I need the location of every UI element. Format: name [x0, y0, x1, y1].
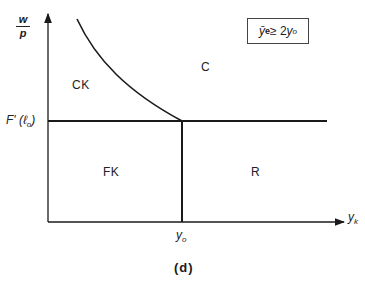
y-tick-arg: (ℓ: [19, 113, 27, 127]
y-tick-label: F' (ℓo): [6, 113, 35, 129]
y-tick-main: F': [6, 113, 16, 127]
condition-rhs-sub: o: [293, 27, 297, 36]
condition-box: ȳe ≥ 2yo: [247, 18, 309, 44]
y-axis-label-denominator: p: [16, 27, 30, 39]
condition-operator: ≥ 2: [270, 24, 287, 38]
x-tick-sub: o: [182, 235, 186, 244]
region-ck-label: CK: [72, 78, 90, 92]
boundary-curve: [77, 19, 182, 121]
y-axis-label-numerator: w: [16, 14, 30, 27]
x-axis-label: yk: [348, 210, 358, 226]
y-tick-close: ): [31, 113, 35, 127]
figure-caption: (d): [174, 260, 194, 275]
region-c-label: C: [201, 60, 210, 74]
region-fk-label: FK: [103, 165, 119, 179]
x-tick-label: yo: [176, 228, 186, 244]
x-axis-label-sub: k: [354, 217, 358, 226]
region-r-label: R: [251, 165, 260, 179]
y-axis-label: w p: [16, 14, 30, 39]
